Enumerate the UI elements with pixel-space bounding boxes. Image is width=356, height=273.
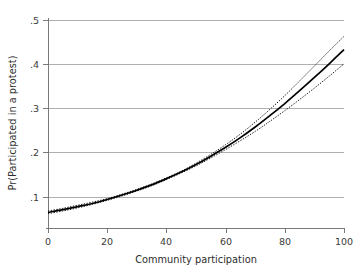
axis-lines bbox=[46, 18, 344, 228]
y-tick-label-0.3: .3 bbox=[30, 103, 39, 114]
x-tick-label-40: 40 bbox=[160, 236, 172, 247]
x-tick-label-0: 0 bbox=[45, 236, 51, 247]
x-tick-label-80: 80 bbox=[279, 236, 291, 247]
y-tick-label-0.2: .2 bbox=[30, 147, 39, 158]
ci-lower-line bbox=[48, 64, 344, 214]
x-axis-ticks bbox=[48, 228, 344, 233]
x-tick-label-100: 100 bbox=[335, 236, 353, 247]
x-tick-labels: 0 20 40 60 80 100 bbox=[45, 236, 353, 247]
x-axis-title: Community participation bbox=[135, 254, 257, 265]
y-axis-ticks bbox=[43, 20, 48, 197]
y-tick-label-0.1: .1 bbox=[30, 192, 39, 203]
ci-upper-line bbox=[48, 36, 344, 211]
y-axis-title: Pr(Participated in a protest) bbox=[7, 55, 18, 190]
y-tick-label-0.5: .5 bbox=[30, 15, 39, 26]
chart-plot-area: .5 .4 .3 .2 .1 0 20 40 60 80 100 Communi… bbox=[0, 0, 356, 273]
y-tick-labels: .5 .4 .3 .2 .1 bbox=[30, 15, 39, 203]
gridlines bbox=[48, 20, 344, 197]
chart-figure: .5 .4 .3 .2 .1 0 20 40 60 80 100 Communi… bbox=[0, 0, 356, 273]
data-series bbox=[48, 36, 344, 213]
x-tick-label-20: 20 bbox=[101, 236, 113, 247]
predicted-probability-line bbox=[48, 50, 344, 213]
x-tick-label-60: 60 bbox=[220, 236, 232, 247]
y-tick-label-0.4: .4 bbox=[30, 59, 39, 70]
